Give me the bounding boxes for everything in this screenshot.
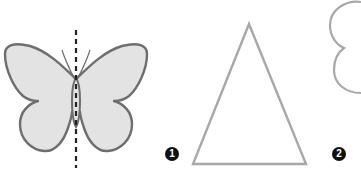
item-number-badge-2: 2 (332, 147, 346, 161)
item-number-1: 1 (169, 148, 175, 159)
butterfly-icon (5, 30, 147, 168)
item-number-badge-1: 1 (165, 147, 179, 161)
item-number-2: 2 (336, 148, 342, 159)
cloud-shape (330, 2, 361, 93)
figure-canvas (0, 0, 361, 180)
symmetry-figure: 1 2 (0, 0, 361, 180)
triangle-shape (193, 24, 306, 164)
